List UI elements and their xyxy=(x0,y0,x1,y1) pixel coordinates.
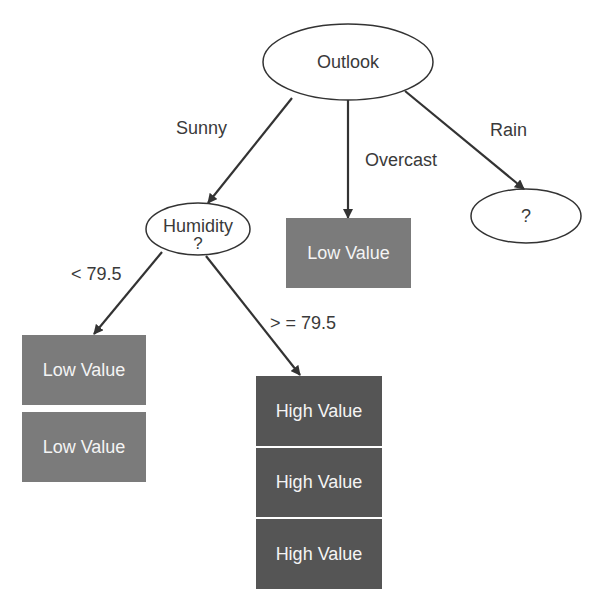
overcast-label: Overcast xyxy=(365,151,437,169)
outlook-label: Outlook xyxy=(263,53,433,71)
sunny-label: Sunny xyxy=(176,119,227,137)
low-leaf-1: Low Value xyxy=(22,335,146,405)
high-leaf-1: High Value xyxy=(256,376,382,446)
rain-edge xyxy=(405,91,524,189)
sunny-edge xyxy=(208,98,292,203)
high-leaf-3: High Value xyxy=(256,519,382,589)
rain-label: Rain xyxy=(490,121,527,139)
high-leaf-2: High Value xyxy=(256,448,382,517)
low-leaf-2: Low Value xyxy=(22,412,146,482)
ge-label: > = 79.5 xyxy=(270,314,336,332)
rain-question: ? xyxy=(471,207,581,225)
overcast-leaf: Low Value xyxy=(286,218,411,288)
humidity-label: Humidity xyxy=(146,217,250,235)
lt-label: < 79.5 xyxy=(71,265,122,283)
humidity-question: ? xyxy=(146,235,250,252)
